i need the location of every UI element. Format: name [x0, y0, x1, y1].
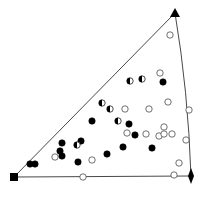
point-open-icon [186, 107, 192, 113]
point-half-icon [139, 76, 145, 82]
point-filled-icon [59, 140, 65, 146]
ipf-triangle-diagram [0, 0, 209, 198]
point-filled-icon [149, 145, 155, 151]
point-half-icon [115, 118, 121, 124]
edge-left [14, 13, 175, 177]
edge-right-arc [175, 13, 191, 176]
point-open-icon [161, 131, 167, 137]
point-filled-icon [120, 144, 126, 150]
square-marker-icon [10, 173, 18, 181]
point-filled-icon [89, 118, 95, 124]
point-half-icon [99, 100, 105, 106]
point-open-icon [171, 172, 177, 178]
point-open-icon [169, 131, 175, 137]
diamond-marker-icon [188, 168, 194, 184]
triangle-edges [14, 13, 191, 177]
point-filled-icon [104, 151, 110, 157]
data-points [27, 32, 192, 180]
triangle-marker-icon [170, 8, 180, 17]
point-filled-icon [59, 153, 65, 159]
point-filled-icon [132, 132, 138, 138]
point-open-icon [124, 130, 130, 136]
point-open-icon [161, 124, 167, 130]
point-open-icon [143, 131, 149, 137]
point-open-icon [146, 106, 152, 112]
point-open-icon [52, 154, 58, 160]
point-open-icon [165, 99, 171, 105]
point-filled-icon [75, 159, 81, 165]
point-open-icon [80, 174, 86, 180]
point-half-icon [127, 78, 133, 84]
corner-markers [10, 8, 194, 184]
point-filled-icon [126, 121, 132, 127]
point-half-icon [74, 142, 80, 148]
point-open-icon [183, 137, 189, 143]
point-open-icon [176, 160, 182, 166]
point-open-icon [89, 157, 95, 163]
point-open-icon [167, 32, 173, 38]
edge-bottom [14, 176, 191, 177]
point-filled-icon [32, 161, 38, 167]
point-open-icon [122, 106, 128, 112]
point-filled-icon [160, 79, 166, 85]
point-open-icon [157, 70, 163, 76]
point-half-icon [107, 106, 113, 112]
